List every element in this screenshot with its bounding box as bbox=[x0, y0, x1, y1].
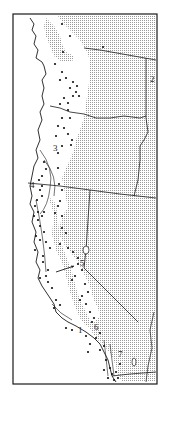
occurrence-dot bbox=[45, 275, 47, 277]
occurrence-dot bbox=[54, 212, 56, 214]
occurrence-dot bbox=[39, 225, 41, 227]
occurrence-dot bbox=[71, 279, 73, 281]
occurrence-dot bbox=[61, 189, 63, 191]
occurrence-dot bbox=[95, 337, 97, 339]
occurrence-dot bbox=[87, 291, 89, 293]
occurrence-dot bbox=[99, 349, 101, 351]
occurrence-dot bbox=[109, 367, 111, 369]
occurrence-dot bbox=[55, 135, 57, 137]
lake-tahoe bbox=[83, 246, 89, 254]
occurrence-dot bbox=[43, 211, 45, 213]
occurrence-dot bbox=[57, 167, 59, 169]
occurrence-dot bbox=[61, 23, 63, 25]
occurrence-dot bbox=[67, 102, 69, 104]
occurrence-dot bbox=[65, 232, 67, 234]
occurrence-dot bbox=[63, 127, 65, 129]
occurrence-dot bbox=[67, 133, 69, 135]
region-label-2: 2 bbox=[150, 74, 155, 84]
occurrence-dot bbox=[61, 145, 63, 147]
occurrence-dot bbox=[72, 95, 74, 97]
region-label-4: 4 bbox=[30, 180, 35, 190]
occurrence-dot bbox=[39, 239, 41, 241]
occurrence-dot bbox=[61, 227, 63, 229]
region-label-7: 7 bbox=[118, 349, 123, 359]
occurrence-dot bbox=[91, 321, 93, 323]
salton-sea bbox=[132, 358, 136, 366]
occurrence-dot bbox=[41, 175, 43, 177]
occurrence-dot bbox=[62, 51, 64, 53]
occurrence-dot bbox=[79, 299, 81, 301]
region-label-3: 3 bbox=[53, 143, 58, 153]
occurrence-dot bbox=[59, 200, 61, 202]
occurrence-dot bbox=[45, 241, 47, 243]
occurrence-dot bbox=[75, 91, 77, 93]
occurrence-dot bbox=[72, 81, 74, 83]
occurrence-dot bbox=[67, 109, 69, 111]
occurrence-dot bbox=[49, 247, 51, 249]
occurrence-dot bbox=[37, 219, 39, 221]
occurrence-dot bbox=[115, 371, 117, 373]
occurrence-dot bbox=[107, 377, 109, 379]
occurrence-dot bbox=[72, 251, 74, 253]
occurrence-dot bbox=[59, 103, 61, 105]
occurrence-dot bbox=[85, 335, 87, 337]
occurrence-dot bbox=[103, 369, 105, 371]
occurrence-dot bbox=[55, 299, 57, 301]
occurrence-dot bbox=[71, 139, 73, 141]
occurrence-dot bbox=[84, 283, 86, 285]
occurrence-dot bbox=[33, 215, 35, 217]
occurrence-dot bbox=[71, 329, 73, 331]
occurrence-dot bbox=[78, 95, 80, 97]
occurrence-dot bbox=[59, 243, 61, 245]
occurrence-dot bbox=[117, 377, 119, 379]
occurrence-dot bbox=[69, 117, 71, 119]
occurrence-dot bbox=[77, 257, 79, 259]
occurrence-dot bbox=[76, 85, 78, 87]
occurrence-dot bbox=[105, 359, 107, 361]
occurrence-dot bbox=[65, 327, 67, 329]
occurrence-dot bbox=[77, 263, 79, 265]
occurrence-dot bbox=[61, 117, 63, 119]
region-label-6: 6 bbox=[94, 322, 99, 332]
occurrence-dot bbox=[39, 189, 41, 191]
occurrence-dot bbox=[63, 97, 65, 99]
occurrence-dot bbox=[34, 205, 36, 207]
occurrence-dot bbox=[45, 168, 47, 170]
occurrence-dot bbox=[59, 79, 61, 81]
occurrence-dot bbox=[42, 261, 44, 263]
occurrence-dot bbox=[41, 215, 43, 217]
occurrence-dot bbox=[70, 144, 72, 146]
occurrence-dot bbox=[74, 275, 76, 277]
occurrence-dot bbox=[99, 332, 101, 334]
occurrence-dot bbox=[81, 269, 83, 271]
occurrence-dot bbox=[81, 295, 83, 297]
occurrence-dot bbox=[41, 185, 43, 187]
occurrence-dot bbox=[35, 235, 37, 237]
occurrence-dot bbox=[87, 351, 89, 353]
occurrence-dot bbox=[119, 363, 121, 365]
occurrence-dot bbox=[58, 183, 60, 185]
occurrence-dot bbox=[53, 307, 55, 309]
occurrence-dot bbox=[93, 317, 95, 319]
occurrence-dot bbox=[57, 125, 59, 127]
occurrence-dot bbox=[61, 71, 63, 73]
occurrence-dot bbox=[89, 343, 91, 345]
region-label-5: 5 bbox=[80, 258, 85, 268]
occurrence-dot bbox=[47, 269, 49, 271]
occurrence-dot bbox=[41, 195, 43, 197]
occurrence-dot bbox=[113, 379, 115, 381]
region-label-1: 1 bbox=[78, 325, 83, 335]
occurrence-dot bbox=[69, 35, 71, 37]
occurrence-dot bbox=[61, 215, 63, 217]
occurrence-dot bbox=[36, 199, 38, 201]
occurrence-dot bbox=[39, 277, 41, 279]
distribution-map: 1234567 bbox=[0, 0, 169, 435]
occurrence-dot bbox=[89, 311, 91, 313]
occurrence-dot bbox=[67, 247, 69, 249]
occurrence-dot bbox=[47, 281, 49, 283]
occurrence-dot bbox=[43, 231, 45, 233]
occurrence-dot bbox=[85, 303, 87, 305]
occurrence-dot bbox=[59, 304, 61, 306]
occurrence-dot bbox=[38, 179, 40, 181]
occurrence-dot bbox=[42, 255, 44, 257]
